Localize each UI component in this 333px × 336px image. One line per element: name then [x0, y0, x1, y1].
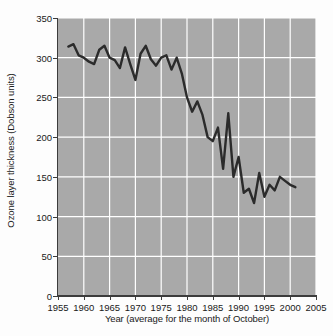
- y-axis-title: Ozone layer thickness (Dobson units): [0, 0, 20, 300]
- ozone-thickness-chart: Ozone layer thickness (Dobson units) 050…: [0, 0, 333, 336]
- y-axis-tick-label: 250: [36, 92, 52, 103]
- x-axis-tick-label: 1980: [176, 302, 197, 313]
- y-axis-tick-label: 350: [36, 13, 52, 24]
- x-axis-title: Year (average for the month of October): [58, 313, 316, 324]
- x-axis-tick-label: 2005: [305, 302, 326, 313]
- x-axis-tick-label: 1985: [202, 302, 223, 313]
- x-axis-tick-label: 1970: [125, 302, 146, 313]
- x-axis-tick-label: 1995: [254, 302, 275, 313]
- x-axis-tick-label: 1990: [228, 302, 249, 313]
- y-axis-tick-label: 200: [36, 132, 52, 143]
- y-axis-tick-label: 100: [36, 211, 52, 222]
- data-line: [68, 44, 295, 203]
- y-axis-tick-label: 50: [41, 251, 52, 262]
- x-axis-tick-label: 1955: [47, 302, 68, 313]
- y-axis-tick-label: 150: [36, 171, 52, 182]
- x-axis-tick-mark: [290, 295, 291, 300]
- x-axis-tick-label: 1975: [151, 302, 172, 313]
- x-axis-tick-mark: [161, 295, 162, 300]
- y-axis-ticks: 050100150200250300350: [18, 0, 58, 310]
- x-axis-tick-mark: [110, 295, 111, 300]
- x-axis-tick-mark: [264, 295, 265, 300]
- data-series-layer: [68, 44, 295, 203]
- x-axis-tick-mark: [316, 295, 317, 300]
- x-axis-tick-mark: [135, 295, 136, 300]
- x-axis-tick-label: 1965: [99, 302, 120, 313]
- plot-svg: [58, 18, 316, 296]
- x-axis-tick-label: 2000: [280, 302, 301, 313]
- y-axis-title-text: Ozone layer thickness (Dobson units): [5, 73, 16, 227]
- y-axis-tick-label: 300: [36, 52, 52, 63]
- x-axis-tick-label: 1960: [73, 302, 94, 313]
- x-axis-tick-mark: [84, 295, 85, 300]
- x-axis-tick-mark: [213, 295, 214, 300]
- plot-area: [58, 18, 316, 296]
- x-axis-tick-mark: [58, 295, 59, 300]
- x-axis-tick-mark: [239, 295, 240, 300]
- x-axis-tick-mark: [187, 295, 188, 300]
